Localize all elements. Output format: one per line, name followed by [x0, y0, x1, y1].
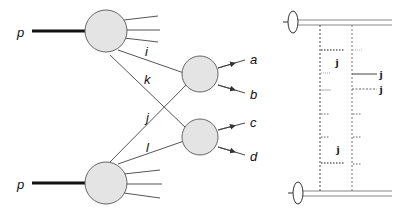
- right-diagram: j j j j: [283, 11, 392, 204]
- bottom-hadron-ellipse: [293, 182, 303, 204]
- hard-scatter-blob-cd: [182, 119, 218, 155]
- proton-blob-bottom: [85, 162, 127, 204]
- line-j: [110, 83, 188, 162]
- label-p-bottom: p: [16, 177, 24, 192]
- label-d: d: [250, 149, 258, 164]
- label-p-top: p: [16, 25, 24, 40]
- proton-blob-top: [85, 10, 127, 52]
- label-j-upper: j: [334, 56, 339, 68]
- label-k: k: [144, 72, 152, 87]
- hard-scatter-blob-ab: [182, 56, 218, 92]
- left-diagram: p p i k j l a b c d: [16, 10, 258, 204]
- label-a: a: [250, 52, 257, 67]
- label-j-dashed: j: [378, 83, 383, 95]
- label-b: b: [250, 87, 257, 102]
- line-i: [118, 50, 184, 73]
- label-i: i: [145, 44, 149, 59]
- top-hadron-ellipse: [288, 11, 298, 33]
- label-c: c: [250, 115, 257, 130]
- label-j-lower: j: [335, 143, 340, 155]
- label-j-solid: j: [378, 68, 383, 80]
- diagram-canvas: p p i k j l a b c d: [0, 0, 407, 215]
